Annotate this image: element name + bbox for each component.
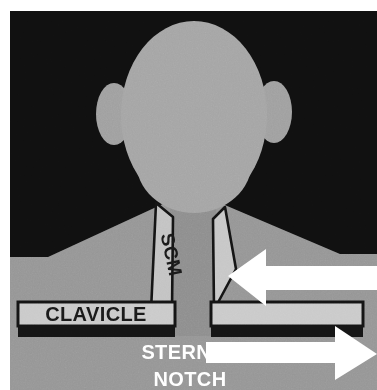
anatomy-illustration: CLAVICLE SCM STERNAL NOTCH xyxy=(0,0,377,390)
figure-canvas: CLAVICLE SCM STERNAL NOTCH xyxy=(10,11,377,390)
figure-drawing: CLAVICLE SCM STERNAL NOTCH xyxy=(10,11,377,390)
grain-layer xyxy=(10,11,377,390)
